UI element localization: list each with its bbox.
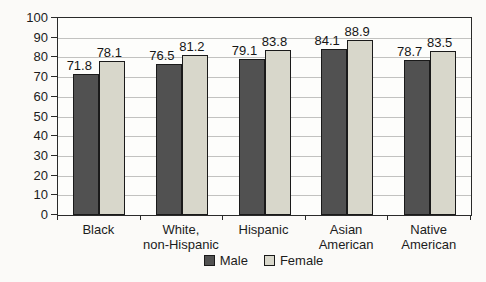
y-axis-title-area: Age in years — [12, 17, 28, 214]
value-label-female-1: 81.2 — [179, 39, 204, 54]
x-tick-0 — [57, 215, 58, 220]
y-tick-label-60: 60 — [34, 88, 48, 103]
legend-male-label: Male — [220, 253, 248, 268]
y-tick-30 — [51, 155, 57, 156]
bar-male-4 — [404, 60, 430, 215]
category-label-0: Black — [57, 222, 140, 237]
bar-male-3 — [321, 49, 347, 215]
x-tick-2 — [222, 215, 223, 220]
bar-male-1 — [156, 64, 182, 215]
category-label-1: White, non-Hispanic — [140, 222, 223, 252]
bar-female-3 — [347, 40, 373, 215]
bar-male-0 — [73, 74, 99, 215]
value-label-male-2: 79.1 — [232, 43, 257, 58]
bar-chart-figure: Age in years 71.878.176.581.279.183.884.… — [0, 0, 486, 282]
value-label-female-2: 83.8 — [262, 34, 287, 49]
value-label-female-0: 78.1 — [97, 45, 122, 60]
y-tick-10 — [51, 194, 57, 195]
y-tick-80 — [51, 56, 57, 57]
y-tick-40 — [51, 135, 57, 136]
value-label-female-3: 88.9 — [344, 24, 369, 39]
category-label-2: Hispanic — [222, 222, 305, 237]
value-label-male-3: 84.1 — [314, 33, 339, 48]
y-tick-label-30: 30 — [34, 147, 48, 162]
y-tick-label-10: 10 — [34, 187, 48, 202]
y-tick-label-40: 40 — [34, 128, 48, 143]
x-tick-1 — [140, 215, 141, 220]
legend-item-female: Female — [264, 253, 323, 268]
x-tick-4 — [387, 215, 388, 220]
y-tick-label-0: 0 — [41, 207, 48, 222]
y-tick-20 — [51, 175, 57, 176]
y-tick-60 — [51, 96, 57, 97]
bar-female-1 — [182, 55, 208, 215]
y-tick-50 — [51, 116, 57, 117]
y-tick-100 — [51, 17, 57, 18]
y-tick-label-90: 90 — [34, 29, 48, 44]
legend: Male Female — [57, 253, 470, 268]
y-tick-90 — [51, 37, 57, 38]
x-tick-3 — [305, 215, 306, 220]
value-label-male-1: 76.5 — [149, 48, 174, 63]
y-tick-label-20: 20 — [34, 167, 48, 182]
y-tick-label-100: 100 — [26, 10, 48, 25]
value-label-male-4: 78.7 — [397, 44, 422, 59]
value-label-female-4: 83.5 — [427, 35, 452, 50]
y-tick-label-80: 80 — [34, 49, 48, 64]
category-label-3: Asian American — [305, 222, 388, 252]
value-label-male-0: 71.8 — [67, 58, 92, 73]
bar-female-0 — [99, 61, 125, 215]
bar-female-4 — [430, 51, 456, 215]
category-label-4: Native American — [387, 222, 470, 252]
legend-item-male: Male — [204, 253, 248, 268]
bar-female-2 — [265, 50, 291, 215]
legend-male-swatch — [204, 255, 215, 266]
legend-female-swatch — [264, 255, 275, 266]
plot-area: 71.878.176.581.279.183.884.188.978.783.5 — [57, 17, 472, 216]
bar-male-2 — [239, 59, 265, 215]
x-tick-5 — [470, 215, 471, 220]
y-tick-label-50: 50 — [34, 108, 48, 123]
y-tick-label-70: 70 — [34, 69, 48, 84]
y-tick-70 — [51, 76, 57, 77]
legend-female-label: Female — [280, 253, 323, 268]
